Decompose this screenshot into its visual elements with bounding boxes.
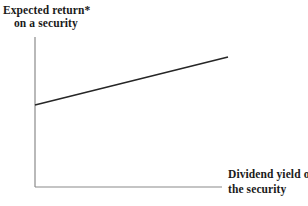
x-axis-label-line2: the security xyxy=(228,183,286,196)
chart-figure: Expected return* on a security Dividend … xyxy=(0,0,308,206)
x-axis-label-line1: Dividend yield on xyxy=(228,168,308,181)
data-series-line xyxy=(35,57,228,105)
y-axis-label-line1: Expected return* xyxy=(3,4,90,17)
y-axis-label-line2: on a security xyxy=(14,17,78,30)
